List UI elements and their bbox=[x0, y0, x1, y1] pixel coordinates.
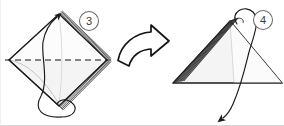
step-4-badge-label: 4 bbox=[260, 14, 266, 26]
step-3-figure: 3 bbox=[5, 11, 114, 117]
step-3-badge-label: 3 bbox=[86, 15, 92, 27]
origami-diagram-svg: 3 bbox=[1, 0, 284, 126]
origami-diagram-canvas: 3 bbox=[0, 0, 284, 126]
step-4-badge: 4 bbox=[254, 11, 273, 30]
transition-block-arrow[interactable] bbox=[118, 25, 169, 66]
step-4-figure: 4 bbox=[173, 9, 282, 118]
step-3-badge: 3 bbox=[80, 12, 99, 31]
